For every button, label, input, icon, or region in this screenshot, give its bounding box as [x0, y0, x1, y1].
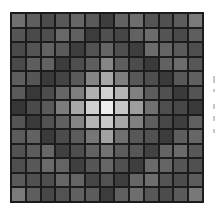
heatmap-cell — [114, 144, 129, 159]
heatmap-cell — [85, 28, 100, 43]
heatmap-cell — [144, 28, 159, 43]
heatmap-cell — [85, 158, 100, 173]
heatmap-cell — [70, 144, 85, 159]
heatmap-cell — [144, 129, 159, 144]
heatmap-cell — [70, 158, 85, 173]
heatmap-cell — [41, 100, 56, 115]
heatmap-cell — [85, 71, 100, 86]
heatmap-cell — [70, 28, 85, 43]
heatmap-cell — [70, 57, 85, 72]
heatmap-cell — [100, 129, 115, 144]
heatmap-cell — [11, 187, 26, 202]
heatmap-cell — [55, 28, 70, 43]
heatmap-cell — [188, 144, 203, 159]
heatmap-cell — [41, 13, 56, 28]
heatmap-cell — [188, 187, 203, 202]
heatmap-cell — [188, 57, 203, 72]
heatmap-cell — [129, 86, 144, 101]
heatmap-cell — [55, 115, 70, 130]
heatmap-cell — [114, 13, 129, 28]
heatmap-cell — [188, 86, 203, 101]
heatmap-cell — [11, 173, 26, 188]
heatmap-cell — [11, 100, 26, 115]
heatmap-cell — [70, 13, 85, 28]
heatmap-cell — [26, 57, 41, 72]
clipped-label-mark — [213, 116, 215, 121]
heatmap-cell — [55, 173, 70, 188]
heatmap-cell — [85, 115, 100, 130]
heatmap-cell — [11, 144, 26, 159]
heatmap-cell — [85, 144, 100, 159]
heatmap-cell — [144, 187, 159, 202]
heatmap-cell — [11, 13, 26, 28]
heatmap-cell — [11, 71, 26, 86]
heatmap-cell — [173, 57, 188, 72]
heatmap-cell — [11, 158, 26, 173]
heatmap-cell — [41, 144, 56, 159]
heatmap-cell — [159, 115, 174, 130]
heatmap-cell — [55, 71, 70, 86]
heatmap-cell — [70, 86, 85, 101]
heatmap-cell — [114, 86, 129, 101]
heatmap-cell — [159, 57, 174, 72]
heatmap-cell — [100, 100, 115, 115]
heatmap-cell — [173, 86, 188, 101]
heatmap-cell — [70, 100, 85, 115]
heatmap-cell — [129, 187, 144, 202]
heatmap-cell — [70, 42, 85, 57]
heatmap-cell — [114, 115, 129, 130]
heatmap-cell — [85, 86, 100, 101]
heatmap-cell — [173, 42, 188, 57]
heatmap-cell — [85, 129, 100, 144]
heatmap-cell — [144, 100, 159, 115]
heatmap-cell — [173, 158, 188, 173]
heatmap-cell — [159, 100, 174, 115]
heatmap-cell — [41, 86, 56, 101]
heatmap-cell — [114, 158, 129, 173]
heatmap-cell — [26, 100, 41, 115]
heatmap-cell — [188, 13, 203, 28]
heatmap-cell — [173, 173, 188, 188]
heatmap-cell — [114, 187, 129, 202]
heatmap-cell — [173, 115, 188, 130]
heatmap-cell — [173, 71, 188, 86]
heatmap-cell — [11, 115, 26, 130]
heatmap-cell — [129, 158, 144, 173]
heatmap-cell — [129, 57, 144, 72]
heatmap-cell — [173, 144, 188, 159]
heatmap-cell — [114, 173, 129, 188]
clipped-label-mark — [213, 89, 215, 92]
heatmap-cell — [70, 71, 85, 86]
heatmap-cell — [26, 71, 41, 86]
heatmap-cell — [159, 129, 174, 144]
heatmap-cell — [85, 42, 100, 57]
heatmap-cell — [70, 173, 85, 188]
heatmap-cell — [41, 115, 56, 130]
heatmap-cell — [100, 158, 115, 173]
heatmap-cell — [55, 129, 70, 144]
heatmap-cell — [11, 57, 26, 72]
heatmap-cell — [26, 187, 41, 202]
heatmap-cell — [85, 57, 100, 72]
heatmap-cell — [188, 100, 203, 115]
heatmap-cell — [70, 187, 85, 202]
heatmap-cell — [159, 13, 174, 28]
heatmap-cell — [188, 129, 203, 144]
heatmap-cell — [41, 71, 56, 86]
heatmap-cell — [129, 173, 144, 188]
heatmap-cell — [129, 144, 144, 159]
heatmap-cell — [41, 173, 56, 188]
heatmap-cell — [144, 144, 159, 159]
heatmap-cell — [85, 173, 100, 188]
heatmap-cell — [85, 100, 100, 115]
heatmap-cell — [144, 173, 159, 188]
heatmap-cell — [144, 86, 159, 101]
heatmap-cell — [85, 187, 100, 202]
heatmap-cell — [41, 57, 56, 72]
heatmap-cell — [188, 42, 203, 57]
heatmap-cell — [129, 71, 144, 86]
heatmap-cell — [26, 42, 41, 57]
heatmap-cell — [173, 13, 188, 28]
heatmap-cell — [100, 144, 115, 159]
heatmap-cell — [41, 129, 56, 144]
